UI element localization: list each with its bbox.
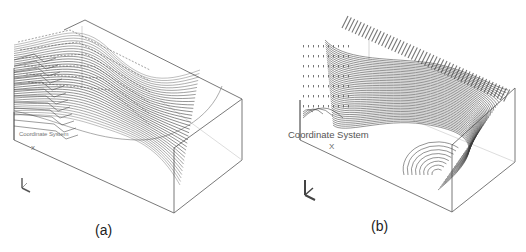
axis-x-label-a: X <box>31 145 35 151</box>
caption-b: (b) <box>371 218 388 234</box>
figure-panel-a: Coordinate System X (a) <box>0 0 263 252</box>
streamline-plot-a <box>0 0 263 252</box>
coordinate-system-label-a: Coordinate System <box>19 131 68 137</box>
axis-x-label-b: X <box>329 142 334 151</box>
streamline-plot-b <box>263 0 526 252</box>
coordinate-triad-b <box>305 180 315 200</box>
coordinate-system-label-b: Coordinate System <box>288 129 369 140</box>
coordinate-triad-a <box>22 178 30 192</box>
streamlines-a <box>14 33 200 185</box>
streamlines-b <box>303 40 508 190</box>
caption-a: (a) <box>95 222 112 238</box>
figure-panel-b: Coordinate System X (b) <box>263 0 526 252</box>
